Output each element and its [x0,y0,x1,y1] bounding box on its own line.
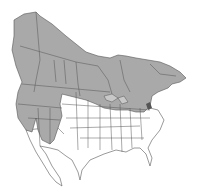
range-map [0,0,203,190]
north-america-map [0,0,203,190]
